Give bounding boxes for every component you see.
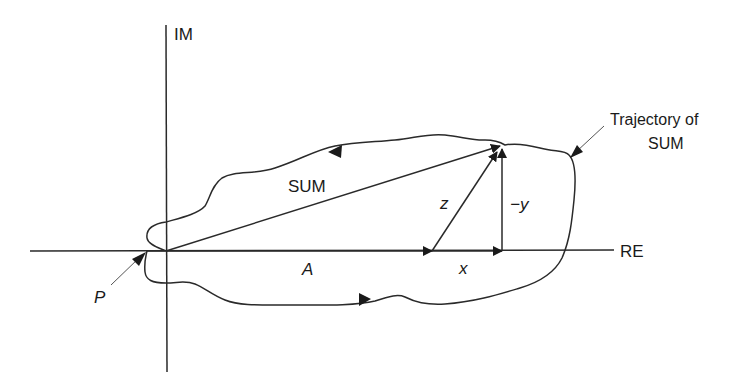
phasor-diagram: IM RE SUM A z x −y Trajectory of SUM P [0,0,752,386]
a-label: A [301,260,313,279]
trajectory-pointer-line [576,126,604,152]
p-label: P [94,288,106,307]
p-pointer-arrowhead [132,252,146,266]
z-label: z [439,194,449,213]
sum-trajectory-curve [145,135,575,306]
trajectory-label-line1: Trajectory of [610,111,699,128]
imaginary-axis [166,25,167,372]
sum-label: SUM [288,177,326,196]
sum-vector [166,146,500,251]
real-axis-label: RE [620,242,644,261]
neg-y-label: −y [510,195,530,214]
imaginary-axis-label: IM [174,25,193,44]
x-label: x [458,259,468,278]
trajectory-label-line2: SUM [648,135,684,152]
trajectory-arrow-bottom [359,293,371,306]
